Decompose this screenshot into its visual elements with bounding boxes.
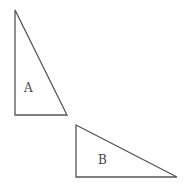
triangles-diagram: A B <box>0 0 188 187</box>
triangle-a <box>15 10 67 115</box>
triangle-b <box>76 125 177 177</box>
triangle-a-label: A <box>23 81 33 95</box>
triangle-b-label: B <box>98 153 107 167</box>
